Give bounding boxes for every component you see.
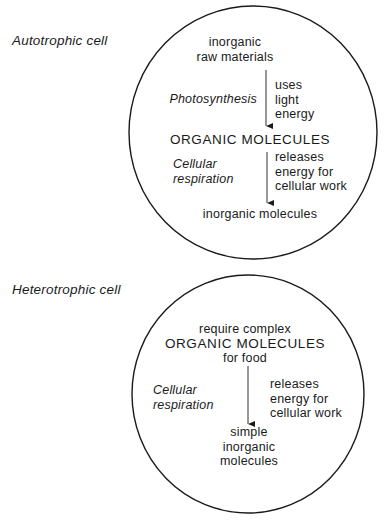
heterotroph-respiration-note-line-3: cellular work — [270, 406, 342, 421]
heterotroph-output-line-3: molecules — [199, 454, 299, 469]
heterotroph-respiration-label-line-2: respiration — [153, 398, 214, 413]
heterotroph-input-line-3: for food — [155, 351, 335, 366]
autotroph-respiration-note-line-2: energy for — [275, 165, 347, 180]
heterotroph-respiration-note-line-2: energy for — [270, 392, 342, 407]
photosynthesis-note-line-3: energy — [275, 107, 314, 122]
heterotroph-input-line-1: require complex — [155, 322, 335, 337]
heterotrophic-cell-label: Heterotrophic cell — [12, 283, 121, 298]
photosynthesis-note-line-1: uses — [275, 78, 314, 93]
autotroph-respiration-note-line-3: cellular work — [275, 179, 347, 194]
autotroph-respiration-label-line-2: respiration — [173, 172, 234, 187]
heterotroph-respiration-note-line-1: releases — [270, 377, 342, 392]
autotroph-respiration-note-line-1: releases — [275, 150, 347, 165]
autotroph-organic-molecules: ORGANIC MOLECULES — [160, 133, 340, 148]
heterotroph-input-line-2: ORGANIC MOLECULES — [155, 337, 335, 352]
heterotroph-respiration-label-line-1: Cellular — [153, 383, 214, 398]
diagram-shapes — [0, 0, 386, 526]
autotroph-input-line-2: raw materials — [175, 50, 295, 65]
heterotroph-output-line-2: inorganic — [199, 440, 299, 455]
heterotroph-output: simple inorganic molecules — [199, 425, 299, 469]
heterotroph-respiration-note: releases energy for cellular work — [270, 377, 342, 421]
photosynthesis-label: Photosynthesis — [150, 92, 257, 107]
heterotroph-output-line-1: simple — [199, 425, 299, 440]
autotroph-output: inorganic molecules — [190, 207, 330, 222]
heterotroph-input: require complex ORGANIC MOLECULES for fo… — [155, 322, 335, 366]
photosynthesis-note: uses light energy — [275, 78, 314, 122]
autotroph-respiration-label-line-1: Cellular — [173, 157, 234, 172]
autotrophic-cell-label: Autotrophic cell — [12, 34, 108, 49]
heterotroph-respiration-label: Cellular respiration — [153, 383, 214, 412]
autotroph-respiration-label: Cellular respiration — [173, 157, 234, 186]
photosynthesis-note-line-2: light — [275, 93, 314, 108]
autotroph-input: inorganic raw materials — [175, 35, 295, 64]
autotroph-respiration-note: releases energy for cellular work — [275, 150, 347, 194]
autotroph-input-line-1: inorganic — [175, 35, 295, 50]
